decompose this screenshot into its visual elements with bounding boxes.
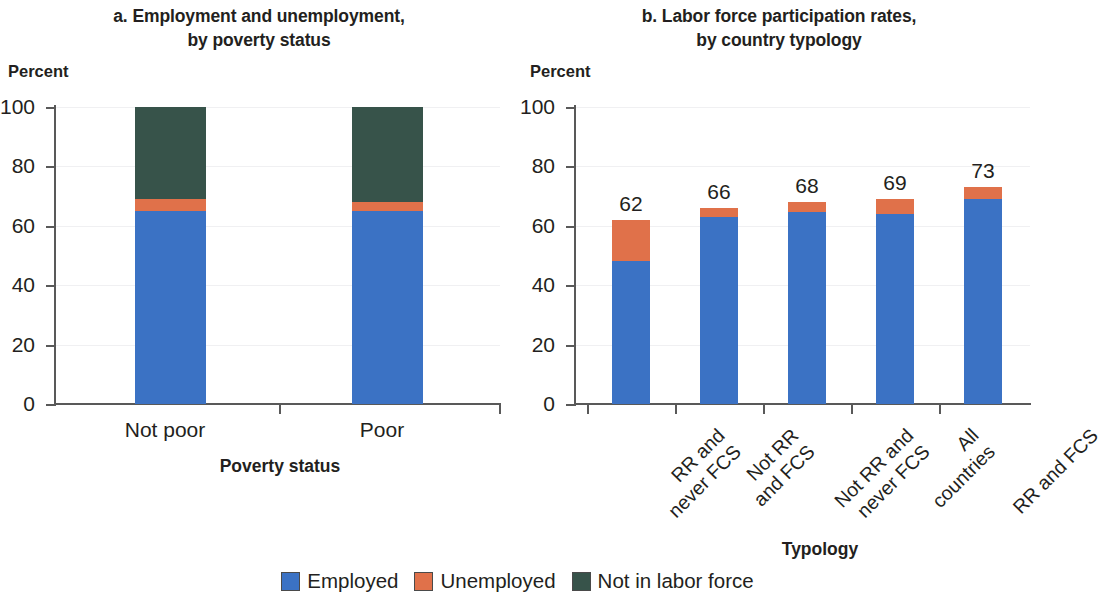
panel-b-axis-title: Typology — [700, 539, 940, 560]
panel-b-value-label: 69 — [883, 172, 906, 193]
panel-b-xcat-not-rr-and-fcs: Not RR and FCS — [733, 424, 820, 511]
panel-b-xcat-all-countries: All countries — [911, 424, 999, 512]
panel-a-axis-title: Poverty status — [130, 456, 430, 477]
panel-b-xcat-rr-and-never-fcs: RR and never FCS — [647, 424, 745, 522]
panel-b-value-label: 62 — [619, 193, 642, 214]
segment-unemployed — [135, 199, 206, 211]
panel-b-title-line2: by country typology — [540, 28, 1018, 52]
panel-a-xcat-not-poor: Not poor — [50, 418, 280, 441]
panel-b-bar-rr-and-fcs[interactable]: 73 — [964, 107, 1002, 404]
panel-b-ylabel-100: 100 — [520, 96, 555, 117]
panel-b-y-axis — [574, 105, 576, 406]
panel-a-y-axis — [54, 105, 56, 406]
legend-item-employed[interactable]: Employed — [281, 571, 398, 592]
panel-b-ytick-0: 0 — [566, 404, 575, 406]
segment-not-in-labor-force — [352, 107, 423, 202]
panel-a-xcat-poor: Poor — [272, 418, 492, 441]
panel-b-title-line1: b. Labor force participation rates, — [540, 4, 1018, 28]
segment-employed — [876, 214, 914, 404]
panel-b-xtick-4 — [939, 404, 941, 414]
panel-a-title-line1: a. Employment and unemployment, — [20, 4, 498, 28]
panel-a-x-axis — [54, 403, 501, 405]
gridline-40 — [55, 285, 500, 286]
panel-a-y-axis-caption: Percent — [8, 62, 69, 81]
segment-unemployed — [700, 208, 738, 217]
panel-a-ytick-20: 20 — [46, 345, 55, 347]
panel-b-value-label: 73 — [971, 160, 994, 181]
gridline-100 — [55, 107, 500, 108]
legend-swatch-unemployed-icon — [414, 572, 433, 591]
panel-a-title: a. Employment and unemployment, by pover… — [20, 4, 498, 52]
panel-a-xtick-mid — [279, 404, 281, 414]
legend-swatch-employed-icon — [281, 572, 300, 591]
panel-a-bar-not-poor[interactable] — [135, 107, 206, 404]
legend-label-employed: Employed — [307, 571, 398, 592]
panel-b-bar-all-countries[interactable]: 69 — [876, 107, 914, 404]
panel-b-xtick-3 — [851, 404, 853, 414]
panel-a-ytick-80: 80 — [46, 166, 55, 168]
xcat-line1: RR and FCS — [1008, 424, 1102, 518]
panel-a-xtick-end — [499, 404, 501, 414]
panel-b-y-axis-caption: Percent — [530, 62, 591, 81]
gridline-20 — [55, 345, 500, 346]
panel-a-ytick-0: 0 — [46, 404, 55, 406]
panel-b-ytick-100: 100 — [566, 107, 575, 109]
segment-unemployed — [964, 187, 1002, 199]
segment-not-in-labor-force — [135, 107, 206, 199]
panel-b-plot-area: 100 80 60 40 20 0 62 66 68 69 — [575, 107, 1030, 404]
panel-b-ytick-20: 20 — [566, 345, 575, 347]
segment-unemployed — [788, 202, 826, 212]
segment-employed — [964, 199, 1002, 404]
gridline-80 — [55, 166, 500, 167]
segment-employed — [352, 211, 423, 404]
panel-b-ylabel-0: 0 — [543, 393, 555, 414]
segment-employed — [135, 211, 206, 404]
panel-b-ylabel-60: 60 — [532, 215, 555, 236]
panel-a-ylabel-100: 100 — [0, 96, 35, 117]
panel-b-xcat-rr-and-fcs: RR and FCS — [1008, 424, 1102, 518]
legend-item-unemployed[interactable]: Unemployed — [414, 571, 555, 592]
panel-b-ylabel-20: 20 — [532, 334, 555, 355]
legend-label-not-in-labor-force: Not in labor force — [598, 571, 754, 592]
segment-unemployed — [876, 199, 914, 214]
panel-b-value-label: 66 — [707, 181, 730, 202]
gridline-60 — [55, 226, 500, 227]
segment-employed — [612, 261, 650, 404]
panel-b-title: b. Labor force participation rates, by c… — [540, 4, 1018, 52]
panel-b-ytick-80: 80 — [566, 166, 575, 168]
segment-unemployed — [352, 202, 423, 211]
legend: Employed Unemployed Not in labor force — [0, 571, 1035, 592]
panel-b-bar-not-rr-and-never-fcs[interactable]: 68 — [788, 107, 826, 404]
panel-b-ylabel-80: 80 — [532, 155, 555, 176]
panel-a-ytick-40: 40 — [46, 285, 55, 287]
segment-unemployed — [612, 220, 650, 262]
panel-a-ylabel-20: 20 — [12, 334, 35, 355]
panel-b-bar-not-rr-and-fcs[interactable]: 66 — [700, 107, 738, 404]
panel-b-value-label: 68 — [795, 175, 818, 196]
legend-swatch-not-in-labor-force-icon — [572, 572, 591, 591]
panel-a-title-line2: by poverty status — [20, 28, 498, 52]
panel-b-ytick-60: 60 — [566, 226, 575, 228]
panel-a-ytick-100: 100 — [46, 107, 55, 109]
panel-a-ylabel-60: 60 — [12, 215, 35, 236]
segment-employed — [788, 212, 826, 404]
panel-a-ylabel-80: 80 — [12, 155, 35, 176]
panel-a-ytick-60: 60 — [46, 226, 55, 228]
segment-employed — [700, 217, 738, 404]
legend-item-not-in-labor-force[interactable]: Not in labor force — [572, 571, 754, 592]
panel-b-xtick-1 — [675, 404, 677, 414]
panel-b-ylabel-40: 40 — [532, 274, 555, 295]
legend-label-unemployed: Unemployed — [440, 571, 555, 592]
panel-a-ylabel-40: 40 — [12, 274, 35, 295]
panel-b-ytick-40: 40 — [566, 285, 575, 287]
panel-b-bar-rr-and-never-fcs[interactable]: 62 — [612, 107, 650, 404]
panel-b-xtick-2 — [763, 404, 765, 414]
panel-a-bar-poor[interactable] — [352, 107, 423, 404]
panel-b-xtick-0 — [587, 404, 589, 414]
panel-a-plot-area: 100 80 60 40 20 0 — [55, 107, 500, 404]
panel-a-ylabel-0: 0 — [23, 393, 35, 414]
